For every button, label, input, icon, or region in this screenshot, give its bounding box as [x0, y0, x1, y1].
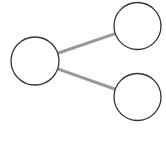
nodes-group: [11, 3, 161, 121]
tree-diagram: [0, 0, 166, 156]
node-root: [11, 37, 59, 85]
edge-root-child-top: [58, 34, 116, 54]
edges-group: [58, 34, 116, 90]
node-child-bottom: [114, 74, 161, 121]
edge-root-child-bottom: [58, 69, 116, 89]
node-child-top: [114, 3, 161, 50]
